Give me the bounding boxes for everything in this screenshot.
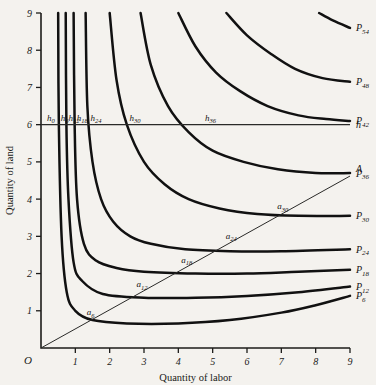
h-point-label-h36: h36 (205, 113, 217, 125)
y-axis-tick-label: 5 (27, 156, 32, 167)
x-axis-tick-label: 6 (245, 356, 250, 367)
x-axis-tick-label: 9 (348, 356, 353, 367)
curve-end-label-P54: P54 (355, 22, 370, 36)
y-axis-tick-label: 4 (27, 194, 32, 205)
origin-label: O (24, 354, 32, 366)
isoquant-curve-P18 (74, 13, 350, 274)
y-axis-tick-label: 3 (26, 231, 32, 242)
a-point-label-a6: a6 (87, 307, 96, 319)
isoquant-chart: 123456789123456789OQuantity of laborQuan… (0, 0, 376, 385)
a-point-label-a24: a24 (226, 231, 238, 243)
curve-end-label-P24: P24 (355, 244, 370, 258)
a-line-label: A (355, 163, 363, 174)
x-axis-tick-label: 5 (210, 356, 215, 367)
x-axis-tick-label: 1 (73, 356, 78, 367)
y-axis-tick-label: 6 (27, 119, 32, 130)
h-point-label-h0: h0 (47, 113, 56, 125)
a-point-label-a12: a12 (137, 279, 149, 291)
x-axis-tick-label: 2 (107, 356, 112, 367)
x-axis-tick-label: 4 (176, 356, 181, 367)
isoquant-curve-P42 (178, 13, 350, 121)
x-axis-title: Quantity of labor (159, 372, 232, 383)
isoquant-curve-P54 (319, 13, 350, 28)
a-point-label-a30: a30 (277, 201, 289, 213)
curve-end-label-P30: P30 (355, 210, 370, 224)
x-axis-tick-label: 8 (313, 356, 318, 367)
curve-end-label-P18: P18 (355, 264, 370, 278)
isoquant-curve-P48 (226, 13, 350, 82)
y-axis-tick-label: 9 (27, 8, 32, 19)
y-axis-tick-label: 1 (27, 305, 32, 316)
chart-canvas: 123456789123456789OQuantity of laborQuan… (0, 0, 376, 385)
y-axis-title: Quantity of land (4, 145, 15, 215)
h-point-label-h24: h24 (90, 113, 102, 125)
a-point-label-a18: a18 (181, 255, 193, 267)
h-line-label: h (356, 119, 361, 130)
y-axis-tick-label: 8 (27, 45, 32, 56)
x-axis-tick-label: 3 (141, 356, 147, 367)
y-axis-tick-label: 7 (27, 82, 33, 93)
x-axis-tick-label: 7 (279, 356, 285, 367)
y-axis-tick-label: 2 (27, 268, 32, 279)
h-point-label-h30: h30 (130, 113, 142, 125)
curve-end-label-P48: P48 (355, 76, 370, 90)
